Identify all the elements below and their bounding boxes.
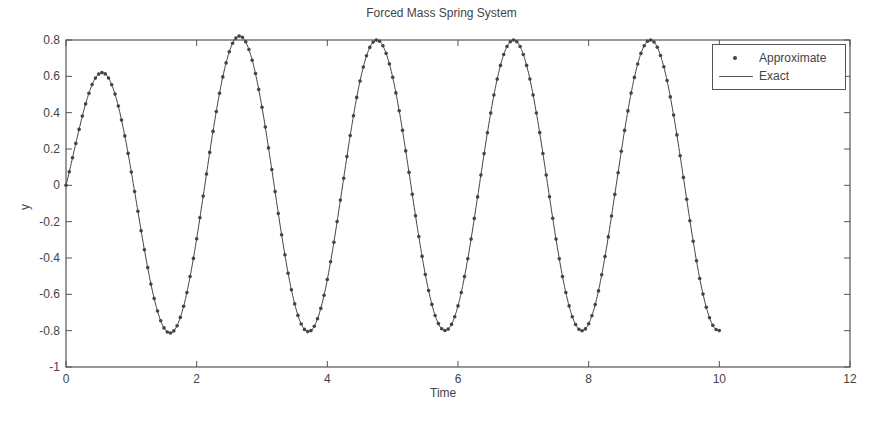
approx-point <box>110 83 114 87</box>
approx-point <box>348 134 352 138</box>
approx-point <box>149 282 153 286</box>
approx-point <box>701 292 705 296</box>
approx-point <box>558 257 562 261</box>
approx-point <box>597 289 601 293</box>
approx-point <box>375 38 379 42</box>
approx-point <box>515 40 519 44</box>
approx-point <box>613 193 617 197</box>
approx-point <box>554 237 558 241</box>
x-axis-label: Time <box>430 386 456 400</box>
approx-point <box>250 58 254 62</box>
approx-point <box>198 216 202 220</box>
approx-point <box>528 77 532 81</box>
approx-point <box>466 257 470 261</box>
approx-point <box>335 220 339 224</box>
approx-point <box>391 75 395 79</box>
approx-point <box>100 71 104 75</box>
approx-point <box>303 328 307 332</box>
approx-point <box>561 275 565 279</box>
approx-point <box>564 291 568 295</box>
approx-point <box>584 327 588 331</box>
approx-point <box>525 64 529 68</box>
approx-point <box>182 305 186 309</box>
approx-point <box>486 131 490 135</box>
approx-point <box>296 314 300 318</box>
approx-point <box>368 46 372 50</box>
approx-point <box>682 176 686 180</box>
approx-point <box>642 44 646 48</box>
approx-point <box>362 65 366 69</box>
approx-point <box>244 40 248 44</box>
approx-point <box>264 125 268 129</box>
approx-point <box>270 168 274 172</box>
approx-point <box>401 128 405 132</box>
approx-point <box>669 95 673 99</box>
approx-point <box>332 241 336 245</box>
approx-point <box>672 113 676 117</box>
approx-point <box>512 38 516 42</box>
approx-point <box>286 271 290 275</box>
approx-point <box>355 96 359 100</box>
approx-point <box>665 79 669 83</box>
approx-point <box>224 61 228 65</box>
approx-point <box>659 54 663 58</box>
approx-point <box>192 257 196 261</box>
approx-point <box>280 233 284 237</box>
y-tick-label: 0.2 <box>43 142 60 156</box>
approx-point <box>705 306 709 310</box>
approx-point <box>342 176 346 180</box>
approx-point <box>388 62 392 66</box>
approx-point <box>499 64 503 68</box>
approx-point <box>548 195 552 199</box>
approx-point <box>571 315 575 319</box>
approx-point <box>169 331 173 335</box>
approx-point <box>691 240 695 244</box>
approx-point <box>156 309 160 313</box>
approx-point <box>162 326 166 330</box>
legend-label: Approximate <box>759 51 826 65</box>
y-tick-label: -0.8 <box>39 324 60 338</box>
approx-point <box>404 149 408 153</box>
approx-point <box>84 102 88 106</box>
approx-point <box>208 151 212 155</box>
approx-point <box>443 329 447 333</box>
approx-point <box>469 237 473 241</box>
exact-line <box>66 36 719 333</box>
legend-item-approximate: Approximate <box>713 49 845 67</box>
approx-point <box>71 156 75 160</box>
approx-point <box>616 171 620 175</box>
approx-point <box>117 104 121 108</box>
x-tick-label: 8 <box>585 372 592 386</box>
approx-point <box>371 40 375 44</box>
approx-point <box>257 88 261 92</box>
approx-point <box>231 42 235 46</box>
approx-point <box>675 133 679 137</box>
approx-point <box>241 36 245 40</box>
y-axis-label: y <box>18 204 32 210</box>
approx-point <box>414 214 418 218</box>
approx-point <box>636 62 640 66</box>
approx-point <box>446 327 450 331</box>
approx-point <box>107 76 111 80</box>
approx-point <box>623 129 627 133</box>
approx-point <box>64 184 68 188</box>
approx-point <box>306 330 310 334</box>
approx-point <box>146 266 150 270</box>
approx-point <box>283 253 287 257</box>
approx-point <box>211 130 215 134</box>
legend-item-exact: Exact <box>713 67 845 85</box>
approx-point <box>603 255 607 259</box>
approx-point <box>541 152 545 156</box>
approx-point <box>185 291 189 295</box>
approx-point <box>567 304 571 308</box>
approx-point <box>417 235 421 239</box>
approx-point <box>326 278 330 282</box>
approx-point <box>505 45 509 49</box>
approx-point <box>538 131 542 135</box>
approx-point <box>626 109 630 113</box>
approx-point <box>94 76 98 80</box>
approx-point <box>531 93 535 97</box>
approx-point <box>319 307 323 311</box>
approx-point <box>518 45 522 49</box>
approx-point <box>656 45 660 49</box>
